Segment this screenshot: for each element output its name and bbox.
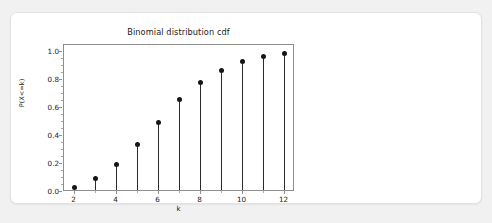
x-tick-mark: [74, 191, 75, 194]
x-tick-mark: [158, 191, 159, 194]
y-tick-label-group: 0.00.20.40.60.81.0: [39, 44, 59, 191]
x-tick-label: 8: [197, 195, 202, 204]
stem-line: [242, 60, 243, 190]
x-tick-label: 10: [237, 195, 246, 204]
y-tick-label: 0.0: [48, 187, 59, 196]
stem-line: [263, 54, 264, 190]
y-tick-label: 1.0: [48, 47, 59, 56]
data-point: [261, 54, 266, 59]
x-tick-mark: [179, 191, 180, 193]
x-tick-mark: [95, 191, 96, 193]
y-tick-label: 0.8: [48, 75, 59, 84]
data-point: [177, 97, 182, 102]
chart-card: Binomial distribution cdf P(X<=k) 0.00.2…: [10, 12, 482, 204]
data-point: [114, 162, 119, 167]
x-tick-mark: [137, 191, 138, 193]
data-point: [198, 80, 203, 85]
stem-line: [200, 81, 201, 190]
x-tick-mark: [242, 191, 243, 194]
y-tick-mark: [59, 191, 62, 192]
x-axis-label: k: [63, 205, 294, 213]
x-tick-mark: [221, 191, 222, 193]
plot-area: [63, 44, 294, 191]
stem-line: [137, 142, 138, 190]
stem-line: [221, 68, 222, 190]
stem-line: [179, 98, 180, 190]
data-point: [219, 68, 224, 73]
data-point: [156, 120, 161, 125]
x-tick-label: 12: [279, 195, 288, 204]
x-tick-mark: [200, 191, 201, 194]
x-tick-mark: [116, 191, 117, 194]
data-point: [282, 51, 287, 56]
x-tick-label: 2: [71, 195, 76, 204]
y-tick-label: 0.6: [48, 103, 59, 112]
y-tick-mark: [59, 163, 62, 164]
x-tick-label: 4: [113, 195, 118, 204]
x-tick-mark: [263, 191, 264, 193]
stem-line: [158, 120, 159, 190]
matplotlib-figure: Binomial distribution cdf P(X<=k) 0.00.2…: [11, 13, 311, 205]
y-tick-mark: [59, 79, 62, 80]
y-tick-label: 0.4: [48, 131, 59, 140]
y-tick-mark: [59, 135, 62, 136]
chart-title: Binomial distribution cdf: [63, 27, 294, 37]
y-tick-mark: [59, 51, 62, 52]
y-axis-label: P(X<=k): [18, 79, 26, 108]
screenshot-root: Binomial distribution cdf P(X<=k) 0.00.2…: [0, 0, 492, 223]
x-tick-label: 6: [155, 195, 160, 204]
x-tick-mark: [284, 191, 285, 194]
data-point: [135, 142, 140, 147]
stem-line: [284, 51, 285, 190]
data-point: [240, 59, 245, 64]
y-tick-mark: [59, 107, 62, 108]
data-point: [72, 185, 77, 190]
data-point: [93, 176, 98, 181]
plot-inner: [64, 45, 293, 190]
y-tick-label: 0.2: [48, 159, 59, 168]
